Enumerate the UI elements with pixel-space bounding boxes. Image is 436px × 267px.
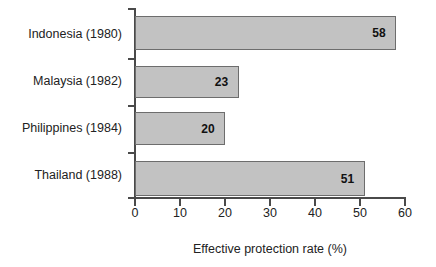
x-tick-label: 60 [385,207,425,220]
x-tick-label: 30 [250,207,290,220]
bar-philippines[interactable]: 20 [135,112,225,145]
x-axis-tick [224,199,226,206]
x-tick-label: 0 [115,207,155,220]
x-axis-tick [359,199,361,206]
x-axis-title: Effective protection rate (%) [0,243,436,256]
bar-value-label: 58 [372,27,386,39]
category-label-indonesia: Indonesia (1980) [28,28,122,41]
bar-chart: 58 23 20 51 Indonesia (1980) Malaysia (1… [0,0,436,267]
x-axis-title-text: Effective protection rate (%) [193,242,347,256]
bar-malaysia[interactable]: 23 [135,66,239,98]
x-axis-tick [134,199,136,206]
bar-value-label: 23 [215,76,229,88]
x-tick-label: 10 [160,207,200,220]
category-label-thailand: Thailand (1988) [34,169,122,182]
x-tick-label: 50 [340,207,380,220]
category-label-malaysia: Malaysia (1982) [33,75,122,88]
bar-indonesia[interactable]: 58 [135,16,396,50]
x-axis-tick [269,199,271,206]
bar-value-label: 20 [201,123,215,135]
category-label-philippines: Philippines (1984) [22,122,122,135]
x-axis-tick [314,199,316,206]
x-axis-tick [404,199,406,206]
bar-value-label: 51 [341,173,355,185]
x-axis-tick [179,199,181,206]
x-tick-label: 20 [205,207,245,220]
bar-thailand[interactable]: 51 [135,161,365,196]
x-tick-label: 40 [295,207,335,220]
plot-area: 58 23 20 51 [135,8,405,198]
